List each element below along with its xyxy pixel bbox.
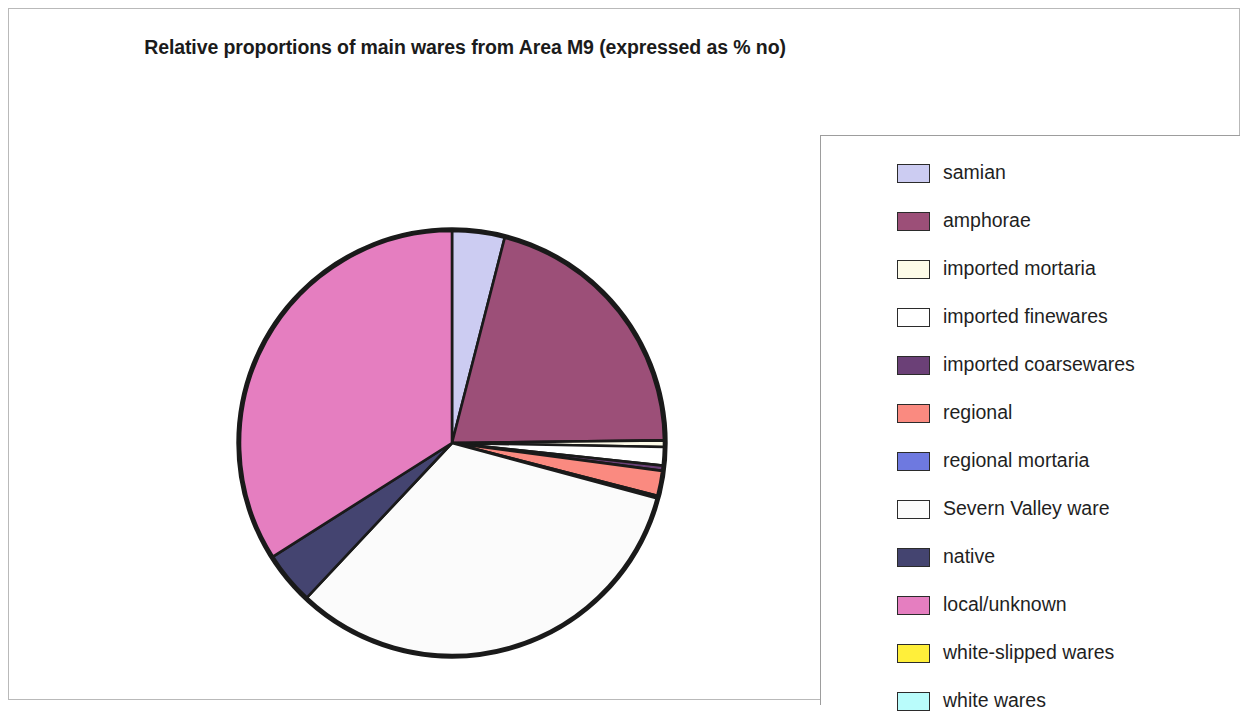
legend-item[interactable]: local/unknown (897, 581, 1237, 629)
legend-item-label: imported mortaria (943, 259, 1096, 279)
legend-swatch-icon (897, 308, 930, 327)
legend-item-label: native (943, 547, 995, 567)
legend-swatch-icon (897, 548, 930, 567)
legend-swatch-icon (897, 500, 930, 519)
legend-item[interactable]: white wares (897, 677, 1237, 713)
legend-swatch-icon (897, 692, 930, 711)
legend-item-label: imported finewares (943, 307, 1108, 327)
page-title: Relative proportions of main wares from … (0, 36, 930, 59)
legend-swatch-icon (897, 260, 930, 279)
legend-swatch-icon (897, 212, 930, 231)
legend-item[interactable]: imported finewares (897, 293, 1237, 341)
chart-page: Relative proportions of main wares from … (0, 0, 1257, 713)
legend-item-label: regional (943, 403, 1012, 423)
legend-item-label: amphorae (943, 211, 1031, 231)
legend-item[interactable]: samian (897, 149, 1237, 197)
pie-slice-group (240, 231, 664, 655)
legend-item-label: white wares (943, 691, 1046, 711)
legend-swatch-icon (897, 452, 930, 471)
legend-swatch-icon (897, 404, 930, 423)
legend-item[interactable]: Severn Valley ware (897, 485, 1237, 533)
legend-item-label: regional mortaria (943, 451, 1089, 471)
legend-item-label: samian (943, 163, 1006, 183)
legend-item[interactable]: amphorae (897, 197, 1237, 245)
legend-swatch-icon (897, 164, 930, 183)
legend-item[interactable]: regional mortaria (897, 437, 1237, 485)
legend: samianamphoraeimported mortariaimported … (820, 135, 1240, 705)
legend-item[interactable]: regional (897, 389, 1237, 437)
legend-item-label: Severn Valley ware (943, 499, 1110, 519)
legend-swatch-icon (897, 644, 930, 663)
pie-chart-svg (236, 220, 672, 668)
legend-item-label: white-slipped wares (943, 643, 1114, 663)
legend-item-label: local/unknown (943, 595, 1067, 615)
pie-chart (236, 220, 672, 668)
legend-item[interactable]: native (897, 533, 1237, 581)
legend-item[interactable]: imported mortaria (897, 245, 1237, 293)
legend-list: samianamphoraeimported mortariaimported … (897, 149, 1237, 713)
legend-item[interactable]: imported coarsewares (897, 341, 1237, 389)
legend-swatch-icon (897, 596, 930, 615)
legend-swatch-icon (897, 356, 930, 375)
legend-item-label: imported coarsewares (943, 355, 1135, 375)
legend-item[interactable]: white-slipped wares (897, 629, 1237, 677)
